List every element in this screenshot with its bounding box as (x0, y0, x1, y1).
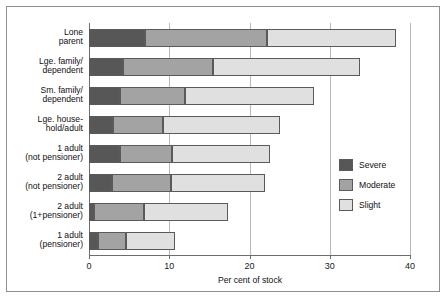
x-tick-label: 40 (405, 261, 415, 271)
legend-swatch-icon (339, 179, 353, 191)
category-label: 2 adult (not pensioner) (7, 173, 83, 192)
bar-segment-moderate (145, 29, 267, 47)
bar-segment-slight (267, 29, 395, 47)
bar-segment-severe (89, 145, 120, 163)
bar-segment-severe (89, 87, 120, 105)
bar-segment-moderate (120, 87, 185, 105)
x-tick-mark (169, 255, 170, 259)
x-tick-label: 0 (86, 261, 91, 271)
bar-segment-severe (89, 29, 145, 47)
bar-segment-slight (144, 203, 228, 221)
bar-segment-moderate (120, 145, 171, 163)
legend-swatch-icon (339, 199, 353, 211)
chart-legend: SevereModerateSlight (339, 157, 395, 217)
chart-figure: 010203040 Lone parentLge. family/ depend… (0, 0, 446, 298)
bar-segment-moderate (112, 174, 171, 192)
legend-label: Moderate (359, 180, 395, 190)
x-tick-label: 10 (164, 261, 174, 271)
x-axis-title: Per cent of stock (89, 275, 411, 285)
bar-segment-moderate (113, 116, 163, 134)
legend-item: Moderate (339, 177, 395, 193)
bar-segment-slight (126, 232, 175, 250)
bar-segment-severe (89, 174, 112, 192)
bar-segment-slight (172, 145, 271, 163)
x-tick-label: 20 (244, 261, 254, 271)
bar-segment-moderate (94, 203, 144, 221)
legend-label: Slight (359, 200, 381, 210)
bar-segment-slight (185, 87, 313, 105)
bar-segment-severe (89, 116, 113, 134)
x-tick-mark (89, 255, 90, 259)
category-label: Sm. family/ dependent (7, 86, 83, 105)
legend-label: Severe (359, 160, 386, 170)
legend-item: Slight (339, 197, 395, 213)
legend-swatch-icon (339, 159, 353, 171)
bar-segment-severe (89, 232, 98, 250)
x-tick-label: 30 (325, 261, 335, 271)
legend-item: Severe (339, 157, 395, 173)
category-label: 2 adult (1+pensioner) (7, 202, 83, 221)
bar-segment-slight (163, 116, 280, 134)
bar-segment-slight (171, 174, 265, 192)
bar-segment-severe (89, 58, 123, 76)
bar-segment-moderate (98, 232, 126, 250)
category-label: 1 adult (not pensioner) (7, 144, 83, 163)
category-label: Lone parent (7, 28, 83, 47)
x-tick-mark (250, 255, 251, 259)
category-label: Lge. house- hold/adult (7, 115, 83, 134)
x-tick-mark (410, 255, 411, 259)
x-tick-mark (330, 255, 331, 259)
chart-frame: 010203040 Lone parentLge. family/ depend… (6, 6, 440, 292)
category-label: Lge. family/ dependent (7, 57, 83, 76)
bar-segment-moderate (123, 58, 213, 76)
bar-segment-slight (213, 58, 361, 76)
category-label: 1 adult (pensioner) (7, 231, 83, 250)
gridline (410, 23, 411, 255)
